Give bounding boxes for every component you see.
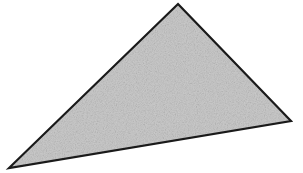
triangle-figure — [0, 0, 303, 173]
figure-canvas — [0, 0, 303, 173]
